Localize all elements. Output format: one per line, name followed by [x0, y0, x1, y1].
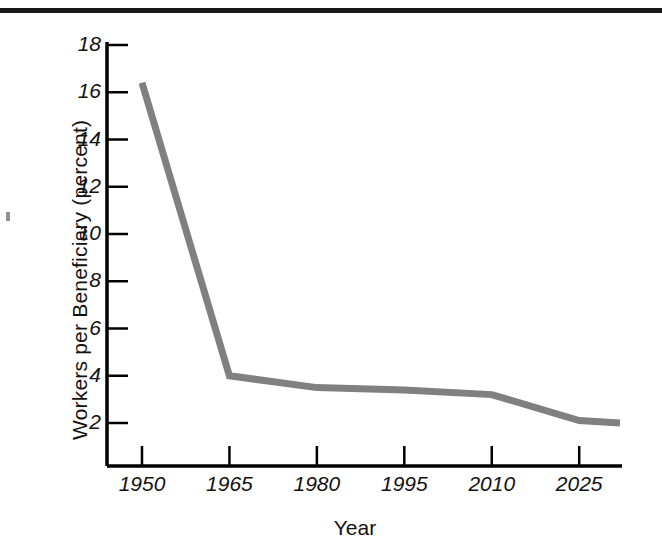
y-tick-label: 16 — [55, 79, 101, 103]
y-tick-label: 14 — [55, 127, 101, 151]
y-tick-label: 6 — [55, 316, 101, 340]
x-axis-title-text: Year — [334, 516, 376, 539]
x-axis-title: Year — [0, 516, 662, 540]
y-tick-label: 18 — [55, 32, 101, 56]
x-tick-label: 2025 — [529, 472, 629, 496]
data-series-line — [142, 83, 620, 423]
x-axis-ticks — [142, 446, 579, 466]
y-tick-label: 12 — [55, 174, 101, 198]
x-tick-label: 1965 — [179, 472, 279, 496]
x-tick-label: 1950 — [92, 472, 192, 496]
chart-figure: Workers per Beneficiary (percent) Year 2… — [0, 0, 662, 559]
x-tick-label: 1995 — [354, 472, 454, 496]
x-tick-label: 2010 — [442, 472, 542, 496]
y-tick-label: 8 — [55, 268, 101, 292]
y-axis-ticks — [107, 45, 128, 423]
y-tick-label: 4 — [55, 363, 101, 387]
y-tick-label: 2 — [55, 410, 101, 434]
x-tick-label: 1980 — [267, 472, 367, 496]
y-tick-label: 10 — [55, 221, 101, 245]
